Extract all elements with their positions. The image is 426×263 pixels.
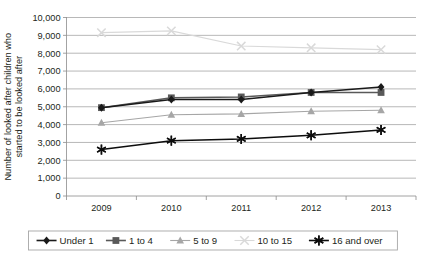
y-tick-label: 10,000: [32, 13, 60, 23]
x-tick-label: 2009: [91, 203, 111, 213]
y-axis-ticks: [63, 18, 67, 197]
data-point-marker-square: [113, 237, 120, 244]
line-chart: 01,0002,0003,0004,0005,0006,0007,0008,00…: [0, 0, 426, 263]
x-axis-ticks: [67, 196, 417, 200]
legend-label: 10 to 15: [258, 235, 293, 246]
y-tick-label: 3,000: [38, 138, 61, 148]
legend-label: 5 to 9: [193, 235, 217, 246]
y-tick-label: 6,000: [38, 84, 61, 94]
series-under-1: [98, 83, 384, 112]
x-tick-label: 2013: [371, 203, 391, 213]
y-axis-tick-labels: 01,0002,0003,0004,0005,0006,0007,0008,00…: [32, 13, 60, 202]
x-tick-label: 2012: [301, 203, 321, 213]
legend: Under 11 to 45 to 910 to 1516 and over: [29, 231, 398, 250]
y-tick-label: 2,000: [38, 156, 61, 166]
legend-label: 1 to 4: [129, 235, 154, 246]
y-axis-title: Number of looked after children who star…: [3, 33, 24, 181]
series-10-to-15: [97, 27, 385, 54]
y-tick-label: 8,000: [38, 49, 61, 59]
y-axis-title-line-1: Number of looked after children who: [3, 33, 13, 181]
x-tick-label: 2010: [161, 203, 181, 213]
y-tick-label: 0: [55, 191, 60, 201]
y-tick-label: 5,000: [38, 102, 61, 112]
y-tick-label: 7,000: [38, 66, 61, 76]
series-16-and-over: [97, 125, 385, 155]
legend-label: Under 1: [60, 235, 94, 246]
x-axis-tick-labels: 20092010201120122013: [91, 203, 391, 213]
y-tick-label: 9,000: [38, 31, 61, 41]
legend-label: 16 and over: [332, 235, 383, 246]
series-group: [97, 27, 385, 155]
chart-canvas: 01,0002,0003,0004,0005,0006,0007,0008,00…: [0, 0, 426, 263]
x-tick-label: 2011: [231, 203, 251, 213]
y-axis-title-line-2: started to be looked after: [14, 56, 24, 158]
y-tick-label: 1,000: [38, 173, 61, 183]
series-5-to-9: [98, 106, 385, 125]
y-tick-label: 4,000: [38, 120, 61, 130]
